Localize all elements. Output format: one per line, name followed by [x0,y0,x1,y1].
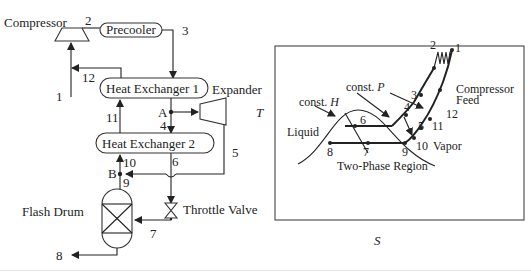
ts-diagram: T S 1 2 3 4 [256,38,524,248]
point-6-label: 6 [360,113,366,127]
compressor: Compressor [4,15,89,41]
point-9-label: 9 [402,145,408,159]
heat-exchanger-2-label: Heat Exchanger 2 [102,136,195,151]
precooler: Precooler [100,22,162,37]
stream-1-label: 1 [56,89,63,104]
precooler-label: Precooler [106,22,156,37]
heat-exchanger-2: Heat Exchanger 2 [96,133,214,153]
point-1-label: 1 [455,41,461,55]
stream-10-label: 10 [123,155,136,170]
compressor-feed-label-2: Feed [456,93,479,107]
point-11-label: 11 [432,119,444,133]
expander: Expander [200,82,262,125]
point-7-label: 7 [363,145,369,159]
stream-2-label: 2 [85,13,92,28]
vapor-label: Vapor [433,139,462,153]
point-3-label: 3 [411,88,417,102]
stream-6-label: 6 [172,154,179,169]
flash-drum-label: Flash Drum [22,204,84,219]
t-axis-label: T [256,105,264,120]
two-phase-label: Two-Phase Region [337,159,428,173]
heat-exchanger-1: Heat Exchanger 1 [100,78,208,98]
stream-7-label: 7 [150,226,157,241]
point-5-label: 5 [418,119,424,133]
liquid-label: Liquid [287,125,319,139]
stream-11-label: 11 [106,110,119,125]
const-h-label: const. H [299,95,340,109]
const-p-label: const. P [346,80,385,94]
stream-12-label: 12 [82,70,95,85]
bottom-divider [0,270,531,271]
point-4-label: 4 [404,100,410,114]
stream-8-label: 8 [56,248,63,263]
flash-drum: Flash Drum [22,189,132,248]
expander-label: Expander [212,82,262,97]
point-10-label: 10 [416,139,428,153]
point-2-label: 2 [430,38,436,52]
heat-exchanger-1-label: Heat Exchanger 1 [106,81,199,96]
point-12-label: 12 [446,107,458,121]
node-b-label: B [108,166,117,181]
liquefaction-diagram: Compressor 2 Precooler 3 Heat Exchanger … [0,0,531,278]
point-8-label: 8 [327,145,333,159]
compressor-label: Compressor [4,15,68,30]
stream-4-label: 4 [160,118,167,133]
throttle-valve: Throttle Valve [165,202,258,218]
s-axis-label: S [374,233,381,248]
process-flow: Compressor 2 Precooler 3 Heat Exchanger … [4,13,262,263]
stream-5-label: 5 [232,145,239,160]
stream-9-label: 9 [123,175,130,190]
throttle-valve-label: Throttle Valve [183,202,258,217]
stream-3-label: 3 [182,23,189,38]
